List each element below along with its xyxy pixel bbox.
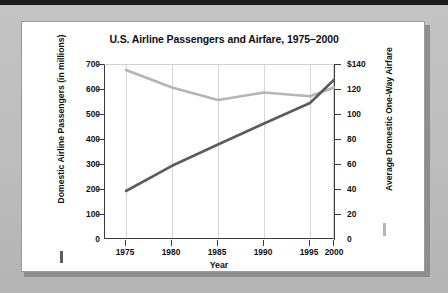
left-axis-title: Domestic Airline Passengers (in millions… xyxy=(56,34,66,204)
right-tick-mark xyxy=(334,139,341,140)
x-tick-mark xyxy=(309,240,310,246)
right-tick-mark xyxy=(334,164,341,165)
right-tick-label: 20 xyxy=(347,209,356,219)
x-tick-label: 1975 xyxy=(116,247,135,257)
right-axis-title: Average Domestic One-Way Airfare xyxy=(384,34,394,204)
right-tick-mark xyxy=(334,114,341,115)
left-tick-mark xyxy=(97,214,104,215)
right-tick-label: 100 xyxy=(347,109,361,119)
right-tick-label: 40 xyxy=(347,184,356,194)
chart-title: U.S. Airline Passengers and Airfare, 197… xyxy=(22,33,426,45)
left-tick-mark xyxy=(97,114,104,115)
right-tick-mark xyxy=(334,189,341,190)
x-tick-label: 1985 xyxy=(208,247,227,257)
right-tick-label: 80 xyxy=(347,134,356,144)
x-tick-mark xyxy=(171,240,172,246)
x-tick-label: 2000 xyxy=(325,247,344,257)
x-axis-title: Year xyxy=(104,260,334,270)
left-tick-label: 0 xyxy=(95,234,100,244)
left-tick-mark xyxy=(97,64,104,65)
right-axis-tick-labels: $140 120 100 80 60 40 20 0 xyxy=(338,64,372,239)
left-tick-mark xyxy=(97,164,104,165)
right-tick-label: 0 xyxy=(347,234,352,244)
legend-swatch-passengers xyxy=(60,251,63,263)
x-tick-mark xyxy=(263,240,264,246)
left-tick-mark xyxy=(97,139,104,140)
right-tick-mark xyxy=(334,89,341,90)
right-tick-label: $140 xyxy=(347,59,366,69)
x-tick-mark xyxy=(125,240,126,246)
right-tick-mark xyxy=(334,64,341,65)
x-tick-label: 1990 xyxy=(254,247,273,257)
left-tick-mark xyxy=(97,189,104,190)
x-tick-mark xyxy=(333,240,334,246)
right-tick-mark xyxy=(334,214,341,215)
left-tick-mark xyxy=(97,89,104,90)
plot-lines xyxy=(105,65,335,240)
right-tick-label: 60 xyxy=(347,159,356,169)
x-tick-mark xyxy=(217,240,218,246)
legend-swatch-airfare xyxy=(383,223,386,236)
line-airfare xyxy=(126,70,334,100)
plot-area xyxy=(104,64,334,239)
right-tick-label: 120 xyxy=(347,84,361,94)
x-tick-label: 1995 xyxy=(300,247,319,257)
chart-card: U.S. Airline Passengers and Airfare, 197… xyxy=(21,21,425,272)
x-tick-label: 1980 xyxy=(162,247,181,257)
